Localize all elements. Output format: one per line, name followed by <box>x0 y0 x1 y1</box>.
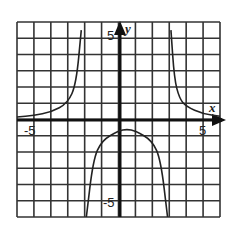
graph <box>0 0 232 234</box>
y-tick-neg5: -5 <box>103 196 115 209</box>
x-axis-label: x <box>209 101 216 114</box>
x-tick-neg5: -5 <box>24 124 36 137</box>
y-axis-label: y <box>125 22 131 35</box>
x-tick-5: 5 <box>199 124 206 137</box>
y-tick-5: 5 <box>107 29 114 42</box>
curve-middle-branch <box>86 130 167 217</box>
